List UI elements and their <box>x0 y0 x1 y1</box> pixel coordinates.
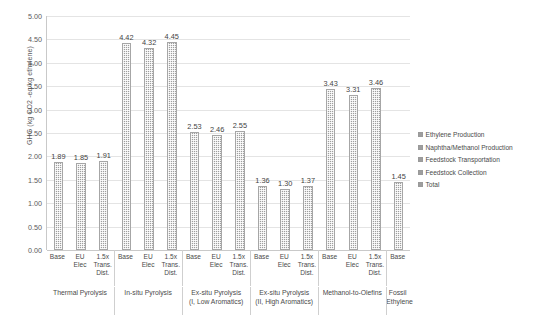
bar-value-label: 1.30 <box>278 179 292 188</box>
y-axis-tick-label: 3.00 <box>28 105 42 114</box>
y-axis-tick-label: 5.00 <box>28 12 42 21</box>
category-tick-line: EU Elec <box>341 253 364 269</box>
axis-separator <box>182 250 183 286</box>
legend-item[interactable]: Naphtha/Methanol Production <box>418 144 542 151</box>
category-tick-line: 1.5x <box>91 253 114 261</box>
category-tick-label: Base <box>318 253 341 261</box>
group-label: Ex-situ Pyrolysis(I, Low Aromatics) <box>182 289 250 306</box>
category-tick-label: Base <box>250 253 273 261</box>
bar-value-label: 2.46 <box>210 125 224 134</box>
bar <box>326 89 336 250</box>
legend-item-label: Ethylene Production <box>426 131 485 138</box>
bar-value-label: 4.45 <box>165 32 179 41</box>
category-tick-line: Base <box>386 253 409 261</box>
legend-swatch-icon <box>418 145 423 150</box>
category-tick-line: Base <box>46 253 69 261</box>
legend-swatch-icon <box>418 182 423 187</box>
axis-separator <box>250 287 251 315</box>
legend-item-label: Feedstock Transportation <box>426 156 500 163</box>
category-tick-label: 1.5xTrans.Dist. <box>364 253 387 278</box>
category-tick-line: Base <box>114 253 137 261</box>
category-tick-line: 1.5x <box>228 253 251 261</box>
axis-separator <box>318 287 319 315</box>
category-tick-line: EU Elec <box>205 253 228 269</box>
bar-value-label: 1.36 <box>255 176 269 185</box>
ghg-bar-chart: GHG (kg CO2 -eq/kg ethylene) 0.000.501.0… <box>0 0 544 325</box>
legend-item[interactable]: Feedstock Transportation <box>418 156 542 163</box>
group-label: In-situ Pyrolysis <box>114 289 182 298</box>
bar-value-label: 4.42 <box>119 33 133 42</box>
category-tick-line: Trans. <box>296 261 319 269</box>
legend-item[interactable]: Ethylene Production <box>418 131 542 138</box>
legend-swatch-icon <box>418 157 423 162</box>
axis-separator <box>250 250 251 286</box>
category-tick-line: Dist. <box>91 269 114 277</box>
group-axis: Thermal PyrolysisIn-situ PyrolysisEx-sit… <box>46 287 409 317</box>
category-tick-line: Base <box>318 253 341 261</box>
y-axis-tick-label: 4.00 <box>28 58 42 67</box>
category-tick-label: EU Elec <box>137 253 160 269</box>
group-label-line: Ex-situ Pyrolysis <box>250 289 318 298</box>
legend-item[interactable]: Feedstock Collection <box>418 169 542 176</box>
bar-value-label: 2.55 <box>233 121 247 130</box>
plot-area: 0.000.501.001.502.002.503.003.504.004.50… <box>46 16 410 250</box>
bar <box>167 42 177 250</box>
group-label-line: (I, Low Aromatics) <box>182 298 250 307</box>
category-tick-line: Dist. <box>364 269 387 277</box>
bar-value-label: 3.46 <box>369 78 383 87</box>
category-tick-label: Base <box>46 253 69 261</box>
bar-value-label: 2.53 <box>187 122 201 131</box>
bar-value-label: 1.45 <box>391 172 405 181</box>
category-tick-line: Dist. <box>228 269 251 277</box>
category-tick-label: 1.5xTrans.Dist. <box>296 253 319 278</box>
axis-separator <box>182 287 183 315</box>
group-label: Methanol-to-Olefins <box>318 289 386 298</box>
group-label-line: (II, High Aromatics) <box>250 298 318 307</box>
bar <box>144 48 154 250</box>
legend-item[interactable]: Total <box>418 181 542 188</box>
category-tick-label: EU Elec <box>205 253 228 269</box>
bar <box>190 132 200 250</box>
category-tick-line: Trans. <box>91 261 114 269</box>
bar <box>280 189 290 250</box>
bars-layer: 1.891.851.914.424.324.452.532.462.551.36… <box>47 16 410 250</box>
bar <box>235 131 245 250</box>
category-tick-line: 1.5x <box>364 253 387 261</box>
category-tick-line: Trans. <box>364 261 387 269</box>
bar <box>54 162 64 250</box>
group-label: Ex-situ Pyrolysis(II, High Aromatics) <box>250 289 318 306</box>
bar <box>212 135 222 250</box>
axis-separator <box>114 250 115 286</box>
category-tick-line: Trans. <box>159 261 182 269</box>
legend: Ethylene ProductionNaphtha/Methanol Prod… <box>418 131 542 194</box>
legend-item-label: Feedstock Collection <box>426 169 487 176</box>
category-tick-label: EU Elec <box>273 253 296 269</box>
axis-separator <box>114 287 115 315</box>
y-axis-tick-label: 0.00 <box>28 246 42 255</box>
bar <box>122 43 132 250</box>
group-label-line: Thermal Pyrolysis <box>46 289 114 298</box>
category-tick-line: Base <box>250 253 273 261</box>
y-axis-tick-label: 2.50 <box>28 129 42 138</box>
category-tick-line: 1.5x <box>296 253 319 261</box>
category-tick-label: 1.5xTrans.Dist. <box>228 253 251 278</box>
y-axis-tick-label: 4.50 <box>28 35 42 44</box>
bar-value-label: 3.43 <box>323 79 337 88</box>
category-tick-line: Trans. <box>228 261 251 269</box>
group-label: FossilEthylene <box>386 289 409 306</box>
category-tick-label: 1.5xTrans.Dist. <box>159 253 182 278</box>
bar-value-label: 3.31 <box>346 85 360 94</box>
axis-separator <box>318 250 319 286</box>
category-tick-label: Base <box>386 253 409 261</box>
category-tick-line: Base <box>182 253 205 261</box>
bar-value-label: 1.89 <box>51 152 65 161</box>
bar <box>76 163 86 250</box>
axis-separator <box>386 287 387 315</box>
legend-item-label: Total <box>426 181 440 188</box>
group-label-line: Ethylene <box>386 298 409 307</box>
group-label-line: Fossil <box>386 289 409 298</box>
bar <box>349 95 359 250</box>
category-tick-label: EU Elec <box>341 253 364 269</box>
bar-value-label: 1.85 <box>74 153 88 162</box>
bar-value-label: 1.37 <box>301 176 315 185</box>
